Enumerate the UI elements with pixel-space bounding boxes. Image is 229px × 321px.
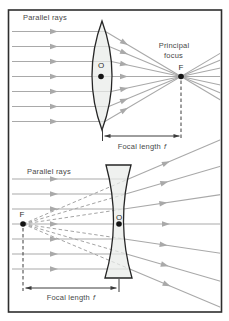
optical-centre-point xyxy=(98,74,104,80)
focal-length-text: Focal length xyxy=(118,142,161,151)
ray-arrowhead xyxy=(160,179,169,187)
diverging-ray xyxy=(130,269,221,307)
lens-diagram-canvas: Parallel rays Principal focus F O Focal … xyxy=(0,0,229,321)
ray-arrowhead xyxy=(50,89,58,95)
principal-focus-point xyxy=(178,74,184,80)
ray-arrowhead xyxy=(50,176,58,182)
ray-arrowhead xyxy=(120,38,130,47)
diverging-ray xyxy=(124,195,221,209)
converging-annotations xyxy=(103,81,182,142)
dimension-arrowhead xyxy=(174,134,180,138)
ray-arrowhead xyxy=(50,104,58,110)
diverging-ray xyxy=(126,166,221,194)
ray-arrowhead xyxy=(120,49,130,57)
ray-arrowhead xyxy=(50,59,58,65)
optical-centre-point xyxy=(116,221,122,227)
focal-length-symbol: f xyxy=(164,142,167,151)
diverging-labels: Parallel rays F O Focal lengthf xyxy=(20,167,123,302)
ray-arrowhead xyxy=(50,29,58,35)
ray-arrowhead xyxy=(161,159,171,167)
converging-lens-diagram: Parallel rays Principal focus F O Focal … xyxy=(12,13,221,152)
optical-centre-label: O xyxy=(116,213,122,222)
parallel-rays-label: Parallel rays xyxy=(23,13,67,22)
principal-focus-label-line2: focus xyxy=(164,51,183,60)
ray-arrowhead xyxy=(50,74,58,80)
ray-arrowhead xyxy=(120,96,130,104)
ray-arrowhead xyxy=(50,266,58,272)
ray-arrowhead xyxy=(50,221,58,227)
diverging-ray xyxy=(126,254,220,281)
ray-arrowhead xyxy=(162,221,170,227)
ray-arrowhead xyxy=(50,236,58,242)
diverging-ray xyxy=(124,239,220,253)
focus-point-label: F xyxy=(20,210,25,219)
ray-arrowhead xyxy=(50,119,58,125)
virtual-ray xyxy=(23,209,124,224)
ray-arrowhead xyxy=(120,74,128,80)
focal-length-text: Focal length xyxy=(47,293,90,302)
ray-arrowhead xyxy=(50,251,58,257)
ray-arrowhead xyxy=(120,85,129,92)
focus-point-label: F xyxy=(179,63,184,72)
ray-arrowhead xyxy=(160,261,169,269)
parallel-rays-label: Parallel rays xyxy=(27,167,71,176)
ray-arrowhead xyxy=(50,206,58,212)
principal-focus-point xyxy=(20,221,26,227)
focal-length-symbol: f xyxy=(93,293,96,302)
lens-diagram-figure: Parallel rays Principal focus F O Focal … xyxy=(0,0,229,321)
optical-centre-label: O xyxy=(98,61,104,70)
ray-arrowhead xyxy=(120,61,129,68)
dimension-arrowhead xyxy=(111,286,117,290)
ray-arrowhead xyxy=(50,44,58,50)
focal-length-label: Focal lengthf xyxy=(47,293,96,302)
ray-arrowhead xyxy=(50,191,58,197)
principal-focus-label-line1: Principal xyxy=(159,41,190,50)
ray-arrowhead xyxy=(162,281,172,289)
focal-length-label: Focal lengthf xyxy=(118,142,167,151)
dimension-arrowhead xyxy=(26,286,32,290)
virtual-ray xyxy=(23,224,124,239)
diverging-lens-diagram: Parallel rays F O Focal lengthf xyxy=(12,140,221,308)
ray-arrowhead xyxy=(120,105,130,114)
dimension-arrowhead xyxy=(105,134,111,138)
